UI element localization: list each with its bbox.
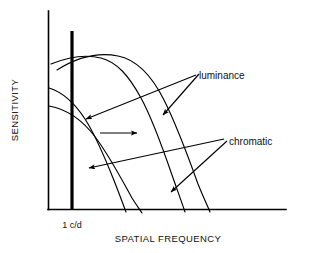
y-axis-label: SENSITIVITY [9, 79, 20, 142]
x-axis-label: SPATIAL FREQUENCY [115, 233, 222, 244]
chromatic-label: chromatic [229, 136, 272, 147]
luminance-arrow-right [163, 74, 199, 115]
csf-figure: luminance chromatic 1 c/d SPATIAL FREQUE… [0, 0, 318, 253]
chromatic-arrow-left [89, 139, 224, 168]
luminance-label: luminance [199, 70, 245, 81]
x-tick-label-1cd: 1 c/d [62, 220, 82, 230]
plot-canvas: luminance chromatic 1 c/d SPATIAL FREQUE… [0, 0, 318, 253]
chromatic-curve-low [49, 88, 126, 212]
